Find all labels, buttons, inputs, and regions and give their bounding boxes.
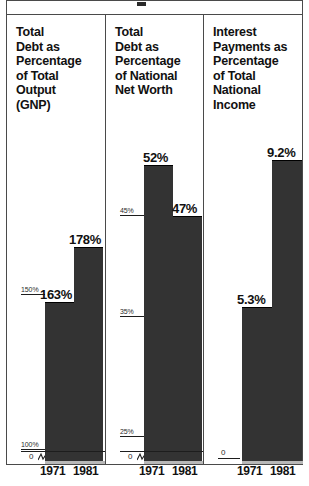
bar-value-1981: 9.2% <box>267 145 295 160</box>
gridline-label-35: 35% <box>120 308 134 315</box>
bar-value-1981: 178% <box>69 232 101 247</box>
frame-right-rule <box>302 0 303 465</box>
bar-1981 <box>173 216 202 462</box>
gridline-45 <box>120 215 144 216</box>
bar-1981 <box>272 160 302 462</box>
panel-row: Total Debt as Percentage of Total Output… <box>7 15 302 464</box>
gridline-label-zero: 0 <box>29 452 33 461</box>
x-tick-1971: 1971 <box>40 464 66 478</box>
bar-1981 <box>74 247 103 462</box>
x-tick-1981: 1981 <box>73 464 99 478</box>
gridline-label-25: 25% <box>120 428 134 435</box>
gridline-35 <box>120 316 144 317</box>
bar-value-1971: 52% <box>143 150 168 165</box>
axis-line <box>120 451 204 452</box>
bar-value-1981: 47% <box>172 201 197 216</box>
axis-line <box>21 451 105 452</box>
gridline-25 <box>120 436 144 437</box>
gridline-0 <box>218 458 240 459</box>
x-tick-1981: 1981 <box>270 464 296 478</box>
x-tick-1971: 1971 <box>139 464 165 478</box>
plot-area-interest-to-income: 0 5.3% 9.2% 1971 1981 <box>204 15 302 464</box>
plot-area-debt-to-gnp: 150% 100% 0 163% 178% 1971 <box>7 15 105 464</box>
frame-top-rule <box>6 0 303 1</box>
bar-1971 <box>144 165 173 462</box>
chart-panel-interest-to-income: Interest Payments as Percentage of Total… <box>203 15 302 464</box>
chart-panel-debt-to-net-worth: Total Debt as Percentage of National Net… <box>105 15 203 464</box>
gridline-label-45: 45% <box>120 207 134 214</box>
bar-value-1971: 5.3% <box>237 292 265 307</box>
bar-1971 <box>242 307 272 462</box>
x-tick-1981: 1981 <box>172 464 198 478</box>
bar-1971 <box>45 302 74 462</box>
plot-area-debt-to-net-worth: 45% 35% 25% 0 52% 47% 1971 1981 <box>106 15 203 464</box>
gridline-label-zero: 0 <box>221 448 225 457</box>
chart-panel-debt-to-gnp: Total Debt as Percentage of Total Output… <box>7 15 105 464</box>
clipped-title-fragment <box>137 2 146 6</box>
gridline-label-zero: 0 <box>128 452 132 461</box>
gridline-label-100: 100% <box>21 441 39 448</box>
gridline-100 <box>21 449 45 450</box>
bar-value-1971: 163% <box>40 287 72 302</box>
gridline-label-150: 150% <box>21 286 39 293</box>
x-tick-1971: 1971 <box>237 464 263 478</box>
figure-root: Total Debt as Percentage of Total Output… <box>0 0 309 486</box>
